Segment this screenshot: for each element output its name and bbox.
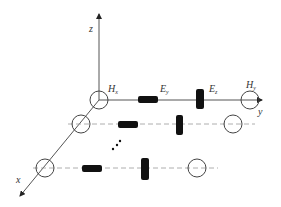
label-ey: Ey: [159, 83, 169, 95]
dipole-element: [82, 165, 102, 172]
z-axis-label: z: [88, 23, 93, 34]
label-hx: Hx: [107, 83, 118, 95]
x-axis-label: x: [15, 174, 21, 185]
ellipsis-dot: [116, 144, 118, 146]
dipole-element: [176, 115, 183, 135]
x-axis: [20, 100, 99, 196]
antenna-array-diagram: z y x Hx Ey Ez Hy: [0, 0, 281, 207]
ellipsis-dot: [119, 140, 121, 142]
label-ez: Ez: [208, 83, 218, 95]
dipole-element: [141, 158, 149, 180]
y-axis-label: y: [257, 106, 263, 117]
dipole-element: [118, 121, 138, 128]
label-hy: Hy: [245, 79, 256, 91]
ellipsis-dot: [112, 148, 114, 150]
dipole-element-ey: [138, 96, 158, 103]
dipole-element-ez: [196, 89, 204, 109]
